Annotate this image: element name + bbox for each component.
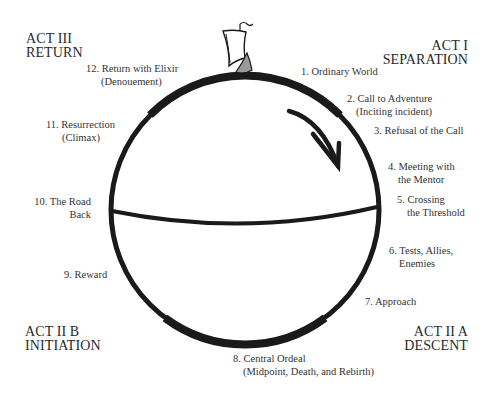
stage-6-tests-allies-enemies: 6. Tests, Allies, Enemies bbox=[389, 244, 453, 270]
stage-3-title: 3. Refusal of the Call bbox=[374, 124, 464, 137]
stage-11-subtitle: (Climax) bbox=[46, 131, 115, 144]
act-2b-label: ACT II B INITIATION bbox=[25, 325, 101, 352]
stage-9-reward: 9. Reward bbox=[64, 268, 107, 281]
act-2a-name: DESCENT bbox=[404, 339, 468, 353]
stage-8-subtitle: (Midpoint, Death, and Rebirth) bbox=[233, 365, 374, 378]
stage-1-title: 1. Ordinary World bbox=[301, 65, 378, 78]
ship-icon bbox=[223, 23, 257, 77]
stage-12-title: 12. Return with Elixir bbox=[86, 62, 178, 75]
act-1-label: ACT I SEPARATION bbox=[383, 39, 468, 66]
stage-2-title: 2. Call to Adventure bbox=[347, 92, 432, 105]
act-3-label: ACT III RETURN bbox=[26, 32, 83, 59]
stage-6-subtitle: Enemies bbox=[389, 257, 453, 270]
stage-4-meeting-with-the-mentor: 4. Meeting with the Mentor bbox=[388, 160, 455, 186]
act-2b-number: ACT II B bbox=[25, 325, 101, 339]
stage-12-subtitle: (Denouement) bbox=[86, 75, 178, 88]
act-3-number: ACT III bbox=[26, 32, 83, 46]
stage-8-central-ordeal: 8. Central Ordeal (Midpoint, Death, and … bbox=[233, 352, 374, 378]
stage-5-title: 5. Crossing bbox=[397, 193, 465, 206]
stage-1-ordinary-world: 1. Ordinary World bbox=[301, 65, 378, 78]
act-2a-label: ACT II A DESCENT bbox=[404, 325, 468, 352]
act-1-name: SEPARATION bbox=[383, 53, 468, 67]
stage-4-title: 4. Meeting with bbox=[388, 160, 455, 173]
stage-4-subtitle: the Mentor bbox=[388, 173, 455, 186]
stage-2-subtitle: (Inciting incident) bbox=[347, 105, 432, 118]
stage-10-subtitle: Back bbox=[34, 208, 91, 221]
stage-10-the-road-back: 10. The Road Back bbox=[34, 195, 91, 221]
journey-circle bbox=[111, 76, 379, 345]
stage-6-title: 6. Tests, Allies, bbox=[389, 244, 453, 257]
stage-12-return-with-elixir: 12. Return with Elixir (Denouement) bbox=[86, 62, 178, 88]
stage-5-crossing-the-threshold: 5. Crossing the Threshold bbox=[397, 193, 465, 219]
stage-10-title: 10. The Road bbox=[34, 195, 91, 208]
act-2a-number: ACT II A bbox=[404, 325, 468, 339]
stage-11-title: 11. Resurrection bbox=[46, 118, 115, 131]
stage-8-title: 8. Central Ordeal bbox=[233, 352, 374, 365]
stage-9-title: 9. Reward bbox=[64, 268, 107, 281]
threshold-line bbox=[112, 207, 377, 224]
act-3-name: RETURN bbox=[26, 46, 83, 60]
stage-11-resurrection: 11. Resurrection (Climax) bbox=[46, 118, 115, 144]
stage-3-refusal-of-the-call: 3. Refusal of the Call bbox=[374, 124, 464, 137]
stage-7-title: 7. Approach bbox=[365, 295, 416, 308]
stage-7-approach: 7. Approach bbox=[365, 295, 416, 308]
stage-5-subtitle: the Threshold bbox=[397, 206, 465, 219]
act-1-number: ACT I bbox=[383, 39, 468, 53]
act-2b-name: INITIATION bbox=[25, 339, 101, 353]
clockwise-arrow-icon bbox=[289, 111, 339, 166]
stage-2-call-to-adventure: 2. Call to Adventure (Inciting incident) bbox=[347, 92, 432, 118]
